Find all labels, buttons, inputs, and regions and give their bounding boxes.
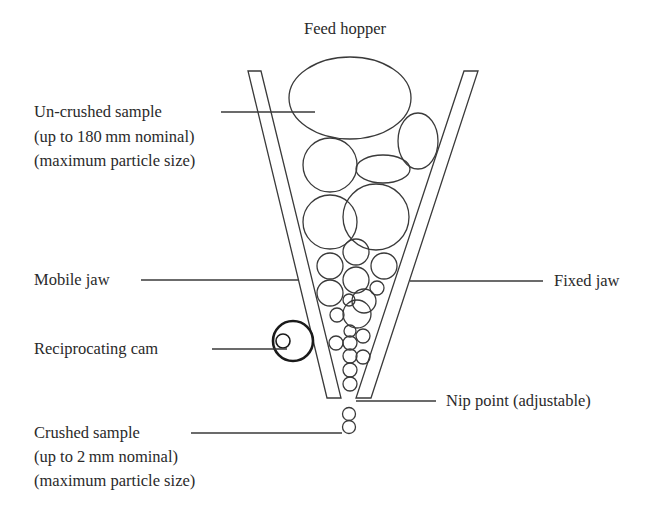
particle — [317, 253, 343, 279]
particle — [317, 280, 343, 306]
particle — [356, 155, 410, 183]
large-particle — [289, 57, 411, 139]
feed-hopper-label: Feed hopper — [304, 19, 387, 38]
svg-text:Un-crushed sample: Un-crushed sample — [34, 102, 162, 121]
particle — [343, 336, 357, 350]
crushed-particle — [343, 408, 356, 421]
jaw-crusher-diagram: Feed hopper — [0, 0, 662, 523]
particle — [330, 308, 344, 322]
particle — [343, 363, 357, 377]
particle — [371, 253, 397, 279]
svg-text:(up to 180 mm nominal): (up to 180 mm nominal) — [34, 127, 195, 146]
uncrushed-sample-label: Un-crushed sample (up to 180 mm nominal)… — [34, 102, 195, 170]
particle — [356, 329, 370, 343]
particle — [343, 377, 357, 391]
mobile-jaw-label: Mobile jaw — [34, 270, 110, 289]
particle — [343, 184, 409, 250]
svg-text:(up to 2 mm nominal): (up to 2 mm nominal) — [34, 447, 178, 466]
cam-wheel — [273, 321, 313, 361]
reciprocating-cam-label: Reciprocating cam — [34, 339, 158, 358]
reciprocating-cam — [273, 321, 313, 361]
particle — [343, 349, 357, 363]
crushed-sample-label: Crushed sample (up to 2 mm nominal) (max… — [34, 423, 195, 490]
svg-text:(maximum particle size): (maximum particle size) — [34, 471, 195, 490]
particle — [356, 350, 370, 364]
particle — [343, 300, 371, 328]
particle — [352, 289, 376, 313]
crushed-particle — [343, 421, 356, 434]
nip-point-label: Nip point (adjustable) — [446, 391, 591, 410]
cam-eccentric — [276, 334, 290, 348]
particle — [329, 336, 343, 350]
svg-text:(maximum particle size): (maximum particle size) — [34, 151, 195, 170]
fixed-jaw — [356, 71, 478, 398]
particle — [303, 138, 357, 192]
svg-text:Crushed sample: Crushed sample — [34, 423, 140, 442]
fixed-jaw-label: Fixed jaw — [554, 271, 620, 290]
